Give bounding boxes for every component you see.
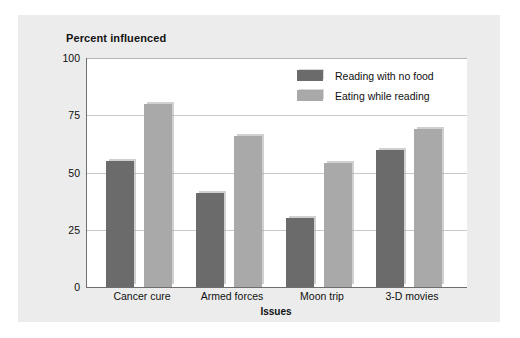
y-tick-100: 100 <box>52 52 80 64</box>
x-axis-title: Issues <box>86 306 466 317</box>
bar-3-d-movies-reading-with-no-food <box>376 150 404 287</box>
bar-group-cancer-cure <box>100 58 184 287</box>
y-tick-25: 25 <box>52 224 80 236</box>
legend-label-reading-with-no-food: Reading with no food <box>335 70 434 82</box>
bar-cancer-cure-reading-with-no-food <box>106 161 134 287</box>
y-tick-0: 0 <box>52 281 80 293</box>
x-tick-armed-forces: Armed forces <box>190 290 274 302</box>
bar-group-armed-forces <box>190 58 274 287</box>
bar-armed-forces-reading-with-no-food <box>196 193 224 287</box>
legend: Reading with no food Eating while readin… <box>297 67 434 107</box>
y-tick-50: 50 <box>52 167 80 179</box>
bar-moon-trip-reading-with-no-food <box>286 218 314 287</box>
x-tick-cancer-cure: Cancer cure <box>100 290 184 302</box>
legend-item-reading-with-no-food: Reading with no food <box>297 67 434 84</box>
bar-3-d-movies-eating-while-reading <box>414 129 442 287</box>
x-tick-moon-trip: Moon trip <box>280 290 364 302</box>
legend-swatch-reading-with-no-food <box>297 70 323 81</box>
x-axis-tick-labels: Cancer cure Armed forces Moon trip 3-D m… <box>86 290 466 306</box>
chart-screenshot: Percent influenced 100 75 50 25 0 C <box>0 0 520 338</box>
bar-armed-forces-eating-while-reading <box>234 136 262 287</box>
x-tick-3-d-movies: 3-D movies <box>370 290 454 302</box>
bar-moon-trip-eating-while-reading <box>324 163 352 287</box>
legend-label-eating-while-reading: Eating while reading <box>335 90 430 102</box>
bar-cancer-cure-eating-while-reading <box>144 104 172 287</box>
legend-item-eating-while-reading: Eating while reading <box>297 87 434 104</box>
legend-swatch-eating-while-reading <box>297 90 323 101</box>
y-axis-tick-labels: 100 75 50 25 0 <box>50 58 80 287</box>
y-tick-75: 75 <box>52 109 80 121</box>
page-title: Percent influenced <box>66 32 166 44</box>
